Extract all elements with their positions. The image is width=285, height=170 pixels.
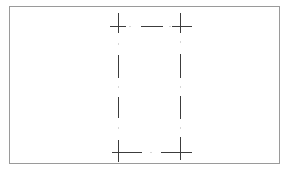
right-edge-dot: [180, 42, 181, 43]
right-edge-dot: [180, 87, 181, 88]
top-edge-dot: [130, 26, 131, 27]
bottom-edge-dot: [151, 152, 152, 153]
left-edge-dot: [118, 87, 119, 88]
left-edge-dot: [118, 128, 119, 129]
left-edge-dot: [118, 44, 119, 45]
top-edge-dot: [170, 26, 171, 27]
right-edge-dot: [180, 128, 181, 129]
dash-dot-rectangle: [0, 0, 285, 170]
